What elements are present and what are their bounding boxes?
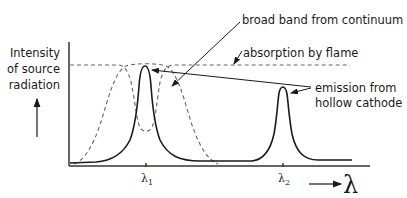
broad-band-label: broad band from continuum [242, 13, 403, 27]
emission-leader-arrow-lambda2 [291, 88, 311, 93]
y-axis-label-line3: radiation [9, 78, 60, 92]
tick-label-lambda2: λ2 [278, 172, 290, 187]
emission-label-line2: hollow cathode [315, 96, 402, 110]
emission-hollow-cathode-curve [70, 66, 352, 163]
emission-label-line1: emission from [315, 81, 396, 95]
broad-band-continuum-curve [74, 64, 218, 164]
absorption-label: absorption by flame [243, 46, 358, 60]
atomic-absorption-diagram: Intensity of source radiation λ1 λ2 λ br… [0, 0, 407, 198]
tick-label-lambda1: λ1 [141, 172, 153, 187]
y-axis-label-line1: Intensity [10, 46, 60, 60]
absorption-by-flame-curve [70, 65, 350, 131]
y-axis-label-line2: of source [7, 62, 60, 76]
absorption-leader-arrow [234, 51, 242, 64]
broad-band-leader-arrow [172, 22, 240, 86]
x-axis-lambda-symbol: λ [343, 171, 358, 198]
